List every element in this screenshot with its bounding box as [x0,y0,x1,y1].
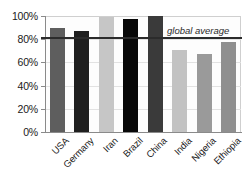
bar-china [148,16,163,132]
bar-nigeria [197,54,212,132]
y-tick-label: 40% [0,80,38,92]
y-tick-label: 60% [0,56,38,68]
y-tick-label: 80% [0,33,38,45]
bar-ethiopia [221,42,236,132]
global-average-line [41,37,242,39]
y-tick-label: 100% [0,10,38,22]
global-average-label: global average [167,25,229,36]
x-tick-label-brazil: Brazil [120,135,144,159]
bar-germany [74,31,89,132]
bar-chart: 100%80%60%40%20%0% global average USAGer… [0,0,251,191]
x-axis-labels: USAGermanyIranBrazilChinaIndiaNigeriaEth… [45,133,241,191]
bar-usa [50,28,65,132]
x-tick-label-usa: USA [50,135,71,156]
x-tick-label-china: China [144,135,169,160]
x-tick-label-ethiopia: Ethiopia [211,135,242,166]
x-tick-label-iran: Iran [101,135,120,154]
y-tick-label: 0% [0,126,38,138]
y-tick-label: 20% [0,103,38,115]
bar-iran [99,17,114,132]
bar-india [172,50,187,132]
